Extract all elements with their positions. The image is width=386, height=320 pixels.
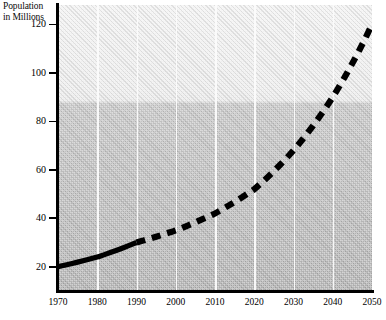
y-tick-120: [49, 24, 56, 26]
x-tick-label-1970: 1970: [38, 297, 78, 307]
plot-area: [58, 5, 372, 291]
x-tick-label-2000: 2000: [156, 297, 196, 307]
x-tick-label-2020: 2020: [234, 297, 274, 307]
x-axis-line: [56, 290, 374, 293]
y-tick-label-80: 80: [16, 115, 46, 126]
x-tick-label-1980: 1980: [77, 297, 117, 307]
y-tick-80: [49, 121, 56, 123]
y-axis-labels: 12010080604020: [4, 0, 46, 320]
x-tick-label-2050: 2050: [352, 297, 386, 307]
y-tick-label-120: 120: [16, 18, 46, 29]
x-tick-label-2030: 2030: [274, 297, 314, 307]
x-tick-label-2040: 2040: [313, 297, 353, 307]
y-axis-line: [56, 3, 59, 293]
y-tick-label-100: 100: [16, 67, 46, 78]
y-tick-label-20: 20: [16, 261, 46, 272]
population-curve: [58, 5, 372, 291]
x-tick-label-1990: 1990: [117, 297, 157, 307]
y-tick-100: [49, 72, 56, 74]
y-tick-60: [49, 169, 56, 171]
y-tick-40: [49, 217, 56, 219]
y-tick-label-40: 40: [16, 212, 46, 223]
curve-projected-segment: [137, 24, 373, 242]
x-tick-label-2010: 2010: [195, 297, 235, 307]
curve-historical-segment: [58, 243, 137, 267]
y-tick-20: [49, 266, 56, 268]
y-tick-label-60: 60: [16, 164, 46, 175]
